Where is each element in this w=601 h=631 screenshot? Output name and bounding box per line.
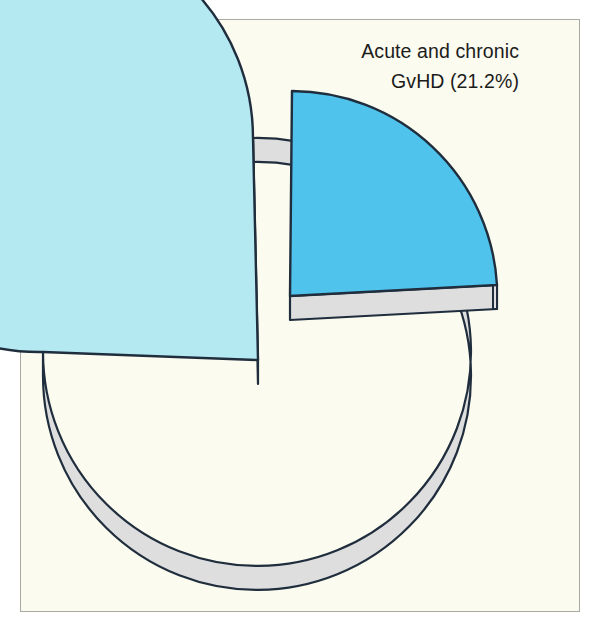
pie-slice-gvhd-edge-wall [493, 285, 497, 309]
chart-canvas: Acute and chronic GvHD (21.2%) [0, 0, 601, 631]
pie-slice-gvhd-top [290, 91, 497, 296]
pie-chart-graphic [0, 0, 601, 631]
pie-slice-acute-and-chronic-gvhd[interactable] [290, 91, 497, 320]
pie-slice-other-top [0, 0, 258, 360]
